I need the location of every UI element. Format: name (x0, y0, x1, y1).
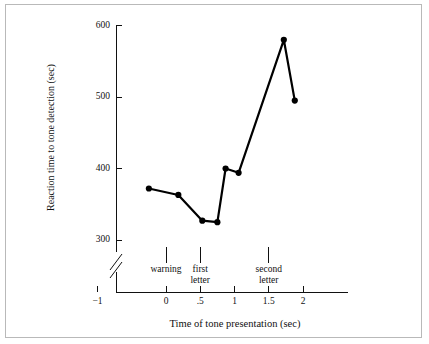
x-tick-label: 2 (288, 296, 318, 306)
data-point-marker (281, 37, 287, 43)
x-tick-label: 0 (151, 296, 181, 306)
x-tick-label: 1 (220, 296, 250, 306)
figure-page: Reaction time to tone detection (sec) Ti… (0, 0, 429, 344)
data-point-marker (175, 192, 181, 198)
data-point-marker (292, 97, 298, 103)
x-tick-label: −1 (83, 296, 113, 306)
event-label: second letter (239, 264, 299, 286)
x-tick-label: .5 (185, 296, 215, 306)
axes-group (98, 26, 349, 293)
event-label: first letter (170, 264, 230, 286)
series-line (149, 40, 295, 222)
event-markers-group (166, 247, 269, 263)
data-point-marker (199, 218, 205, 224)
y-tick-label: 500 (84, 91, 110, 101)
axis-break-slash (110, 254, 122, 270)
y-tick-label: 400 (84, 163, 110, 173)
data-series-group (146, 37, 298, 226)
data-point-marker (222, 165, 228, 171)
data-point-marker (146, 185, 152, 191)
data-point-marker (236, 170, 242, 176)
y-tick-label: 300 (84, 234, 110, 244)
data-point-marker (214, 219, 220, 225)
y-tick-label: 600 (84, 20, 110, 30)
x-tick-label: 1.5 (254, 296, 284, 306)
chart-plot-area (0, 0, 429, 344)
